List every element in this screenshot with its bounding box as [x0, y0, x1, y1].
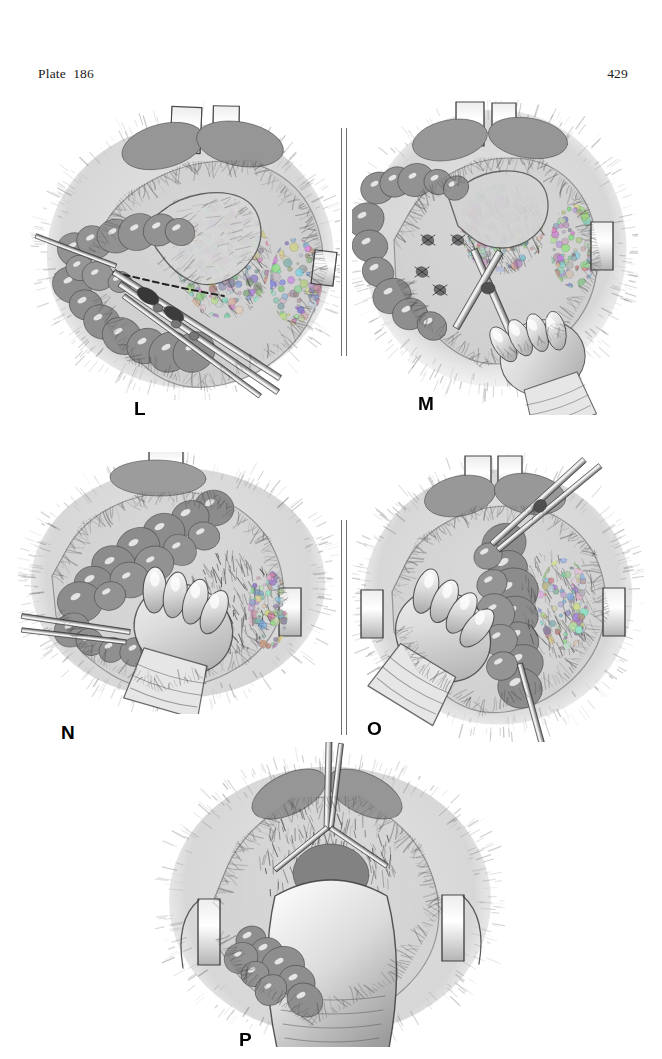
- panel-letter-o: O: [367, 719, 382, 738]
- figure-panel-m: [352, 100, 638, 415]
- panel-letter-m: M: [418, 394, 434, 413]
- panel-letter-p: P: [239, 1030, 252, 1049]
- figure-panel-o: [352, 452, 644, 742]
- page-number: 429: [0, 66, 628, 82]
- panel-letter-l: L: [134, 399, 146, 418]
- illustration-p: [155, 742, 505, 1047]
- panel-divider-row1: [341, 128, 348, 356]
- illustration-m: [352, 100, 638, 415]
- figure-panel-l: [28, 100, 340, 400]
- figure-panel-n: [18, 452, 338, 714]
- illustration-n: [18, 452, 338, 714]
- illustration-o: [352, 452, 644, 742]
- panel-divider-row2: [341, 520, 348, 735]
- panel-letter-n: N: [61, 723, 75, 742]
- atlas-page: Plate 186 429 L M N O P: [0, 0, 662, 1059]
- figure-panel-p: [155, 742, 505, 1047]
- illustration-l: [28, 100, 340, 400]
